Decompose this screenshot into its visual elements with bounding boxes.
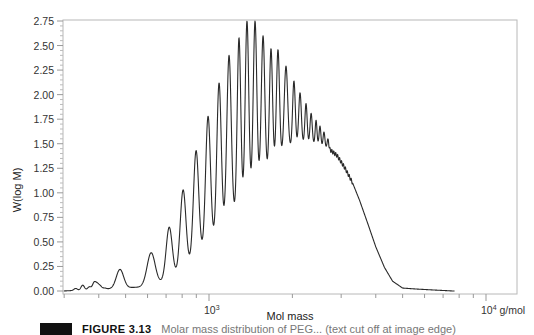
y-tick-label: 1.75: [34, 113, 55, 125]
y-tick-label: 2.00: [34, 89, 55, 101]
y-tick-label: 2.50: [34, 40, 55, 52]
y-tick-label: 1.25: [34, 162, 55, 174]
y-tick-label: 1.00: [34, 187, 55, 199]
y-tick-label: 1.50: [34, 138, 55, 150]
y-tick-label: 0.75: [34, 211, 55, 223]
plot-frame: [63, 20, 517, 294]
x-tick-label: 104 g/mol: [481, 304, 525, 316]
y-tick-label: 0.50: [34, 236, 55, 248]
y-axis-title: W(log M): [11, 168, 23, 213]
y-tick-label: 2.25: [34, 64, 55, 76]
x-tick-label: 103: [204, 304, 220, 316]
y-tick-label: 0.25: [34, 260, 55, 272]
caption-label: FIGURE 3.13: [82, 323, 151, 335]
caption-text: Molar mass distribution of PEG... (text …: [161, 323, 455, 335]
caption-marker: [40, 323, 72, 335]
y-tick-label: 2.75: [34, 15, 55, 27]
y-tick-label: 0.00: [34, 285, 55, 297]
y-axis-ticks: 0.000.250.500.751.001.251.501.752.002.25…: [34, 15, 63, 297]
x-axis-title: Mol mass: [266, 310, 314, 322]
data-curve: [64, 21, 455, 291]
figure-caption: FIGURE 3.13 Molar mass distribution of P…: [40, 323, 456, 335]
